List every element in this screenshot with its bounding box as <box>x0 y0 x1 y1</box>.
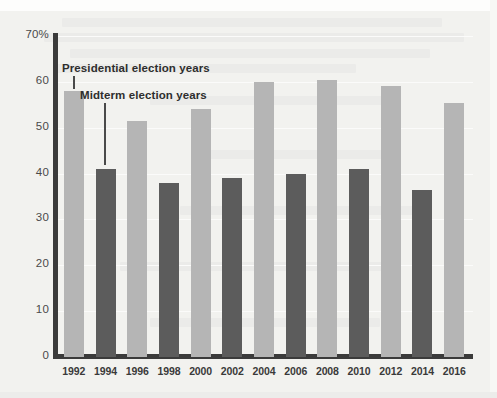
bar-1992 <box>64 91 84 357</box>
y-axis-tick-label: 40 <box>3 166 49 178</box>
bar-2000 <box>191 109 211 357</box>
y-axis-tick-label: 60 <box>3 74 49 86</box>
x-axis-tick-label-1994: 1994 <box>90 365 122 377</box>
x-axis-tick-label-2004: 2004 <box>248 365 280 377</box>
x-axis-tick-label-2014: 2014 <box>407 365 439 377</box>
chart-figure: 010203040506070% 19921994199619982000200… <box>0 0 497 398</box>
x-axis-tick-label-1992: 1992 <box>58 365 90 377</box>
y-axis-tick-label: 50 <box>3 120 49 132</box>
y-axis-tick-label: 0 <box>3 349 49 361</box>
bar-2010 <box>349 169 369 357</box>
bar-2014 <box>412 190 432 357</box>
y-axis-tick-label: 20 <box>3 257 49 269</box>
x-axis-tick-label-2008: 2008 <box>312 365 344 377</box>
annotation-label-midterm: Midterm election years <box>80 89 207 101</box>
gridline <box>58 36 473 37</box>
y-axis-tick-label: 70% <box>3 28 49 40</box>
bar-1994 <box>96 169 116 357</box>
plot-area: 010203040506070% 19921994199619982000200… <box>0 0 497 398</box>
x-axis-tick-label-2016: 2016 <box>438 365 470 377</box>
bar-2012 <box>381 86 401 357</box>
bar-2002 <box>222 178 242 357</box>
x-axis-tick-label-2000: 2000 <box>185 365 217 377</box>
bar-2008 <box>317 80 337 357</box>
x-axis-tick-label-2012: 2012 <box>375 365 407 377</box>
bar-2016 <box>444 103 464 358</box>
x-axis-tick-label-2010: 2010 <box>343 365 375 377</box>
annotation-leader-line-midterm <box>104 103 106 165</box>
bar-2006 <box>286 174 306 357</box>
x-axis-tick-label-1998: 1998 <box>153 365 185 377</box>
x-axis-tick-label-2002: 2002 <box>216 365 248 377</box>
y-axis-tick-label: 10 <box>3 303 49 315</box>
y-axis-tick-label: 30 <box>3 211 49 223</box>
x-axis-tick-label-2006: 2006 <box>280 365 312 377</box>
bar-1996 <box>127 121 147 357</box>
bar-1998 <box>159 183 179 357</box>
y-axis-spine <box>53 33 58 359</box>
annotation-label-presidential: Presidential election years <box>62 62 210 74</box>
bar-2004 <box>254 82 274 357</box>
x-axis-tick-label-1996: 1996 <box>121 365 153 377</box>
annotation-leader-line-presidential <box>73 76 75 89</box>
